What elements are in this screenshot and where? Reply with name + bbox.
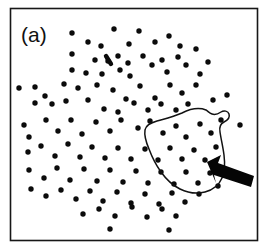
scatter-dot <box>152 39 157 44</box>
scatter-plot-svg: (a) <box>0 0 265 250</box>
scatter-dot <box>127 73 132 78</box>
scatter-dot <box>89 144 94 149</box>
scatter-dot <box>117 67 122 72</box>
scatter-dot <box>185 101 190 106</box>
scatter-dot <box>85 39 90 44</box>
scatter-dot <box>69 51 74 56</box>
scatter-dot <box>49 101 54 106</box>
scatter-dot <box>183 134 188 139</box>
figure-panel: (a) <box>0 0 265 250</box>
scatter-dot <box>169 190 174 195</box>
scatter-dot <box>58 187 63 192</box>
scatter-dot <box>61 81 66 86</box>
scatter-dot <box>94 82 99 87</box>
scatter-dot <box>197 121 202 126</box>
scatter-dot <box>193 46 198 51</box>
scatter-dot <box>133 168 138 173</box>
scatter-dot <box>129 204 134 209</box>
scatter-dot <box>112 213 117 218</box>
scatter-dot <box>43 117 48 122</box>
scatter-dot <box>83 70 88 75</box>
scatter-dot <box>21 122 26 127</box>
scatter-dot <box>99 71 104 76</box>
scatter-dot <box>126 41 131 46</box>
scatter-dot <box>224 92 229 97</box>
scatter-dot <box>107 226 112 231</box>
scatter-dot <box>128 156 133 161</box>
scatter-dot <box>167 82 172 87</box>
scatter-dot <box>110 87 115 92</box>
scatter-dot <box>67 177 72 182</box>
scatter-dot <box>183 62 188 67</box>
scatter-dot <box>107 128 112 133</box>
scatter-dot <box>173 107 178 112</box>
scatter-dot <box>191 147 196 152</box>
scatter-dot <box>115 53 120 58</box>
scatter-dot <box>135 125 140 130</box>
scatter-dot <box>115 109 120 114</box>
scatter-dot <box>69 30 74 35</box>
scatter-dot <box>115 145 120 150</box>
scatter-dot <box>145 107 150 112</box>
scatter-dot <box>152 95 157 100</box>
scatter-dot <box>142 146 147 151</box>
scatter-dot <box>131 100 136 105</box>
scatter-dot <box>26 134 31 139</box>
scatter-dot <box>28 186 33 191</box>
scatter-dot <box>79 131 84 136</box>
scatter-dot <box>179 90 184 95</box>
scatter-dot <box>69 67 74 72</box>
scatter-dot <box>137 83 142 88</box>
scatter-dot <box>140 53 145 58</box>
scatter-dot <box>195 180 200 185</box>
scatter-dot <box>179 156 184 161</box>
scatter-dot <box>166 227 171 232</box>
scatter-dot <box>16 85 21 90</box>
scatter-dot <box>92 57 97 62</box>
scatter-dot <box>107 167 112 172</box>
scatter-dot <box>173 213 178 218</box>
scatter-dot <box>25 149 30 154</box>
scatter-dot <box>237 122 242 127</box>
scatter-dot <box>210 97 215 102</box>
scatter-dot <box>183 169 188 174</box>
scatter-dot <box>213 144 218 149</box>
scatter-dot <box>52 153 57 158</box>
scatter-dot <box>65 141 70 146</box>
scatter-dot <box>202 157 207 162</box>
scatter-dot <box>32 100 37 105</box>
scatter-dot <box>102 155 107 160</box>
scatter-dot <box>75 85 80 90</box>
scatter-dot <box>55 128 60 133</box>
scatter-dot <box>101 106 106 111</box>
scatter-dot <box>158 101 163 106</box>
scatter-dot <box>159 206 164 211</box>
scatter-dot <box>111 26 116 31</box>
scatter-dot <box>144 214 149 219</box>
scatter-dot <box>41 175 46 180</box>
scatter-dot <box>123 96 128 101</box>
scatter-dot <box>164 69 169 74</box>
scatter-dot <box>93 119 98 124</box>
scatter-dot <box>160 130 165 135</box>
scatter-dot <box>114 189 119 194</box>
scatter-dot <box>77 154 82 159</box>
scatter-dot <box>156 201 161 206</box>
scatter-dot <box>43 193 48 198</box>
scatter-dot <box>98 43 103 48</box>
scatter-dot <box>205 59 210 64</box>
scatter-dot <box>173 123 178 128</box>
scatter-dot <box>149 62 154 67</box>
scatter-dot <box>80 211 85 216</box>
scatter-dot <box>32 84 37 89</box>
scatter-dot <box>125 60 130 65</box>
scatter-dot <box>100 198 105 203</box>
scatter-dot <box>42 93 47 98</box>
scatter-dot <box>145 180 150 185</box>
scatter-dot <box>175 54 180 59</box>
scatter-dot <box>177 43 182 48</box>
scatter-dot <box>142 191 147 196</box>
panel-label: (a) <box>21 23 47 46</box>
scatter-dot <box>87 188 92 193</box>
scatter-dot <box>73 196 78 201</box>
